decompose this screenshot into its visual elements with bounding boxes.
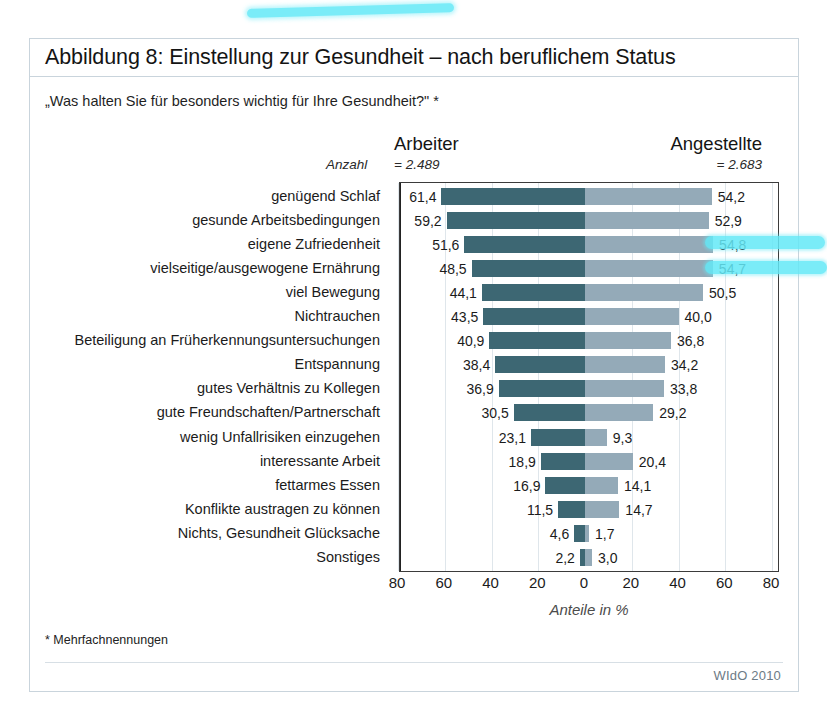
axis-tick-label: 80	[763, 574, 780, 591]
bar-arbeiter	[531, 429, 585, 446]
category-label: Beteiligung an Früherkennungsuntersuchun…	[74, 328, 380, 352]
value-label-arbeiter: 11,5	[400, 498, 553, 522]
category-label: wenig Unfallrisiken einzugehen	[180, 425, 380, 449]
bar-arbeiter	[514, 404, 585, 421]
anzahl-label: Anzahl	[326, 157, 367, 172]
value-label-arbeiter: 48,5	[400, 257, 467, 281]
page-title: Abbildung 8: Einstellung zur Gesundheit …	[45, 45, 676, 70]
value-label-angestellte: 40,0	[685, 305, 712, 329]
axis-tick-label: 0	[580, 574, 588, 591]
value-label-arbeiter: 43,5	[400, 305, 478, 329]
value-label-arbeiter: 40,9	[400, 329, 484, 353]
value-label-angestellte: 52,9	[715, 209, 742, 233]
category-label: Nichts, Gesundheit Glücksache	[178, 521, 380, 545]
bar-arbeiter	[447, 212, 585, 229]
bar-angestellte	[585, 212, 709, 229]
category-label-column: genügend Schlafgesunde Arbeitsbedingunge…	[30, 182, 390, 572]
value-label-angestellte: 1,7	[595, 522, 614, 546]
bar-angestellte	[585, 525, 589, 542]
value-label-angestellte: 9,3	[613, 426, 632, 450]
footnote: * Mehrfachnennungen	[45, 633, 168, 647]
gridline	[398, 183, 399, 571]
category-label: genügend Schlaf	[271, 184, 380, 208]
column-headers: Arbeiter = 2.489 Angestellte = 2.683 Anz…	[30, 133, 798, 179]
value-label-angestellte: 36,8	[677, 329, 704, 353]
bar-arbeiter	[495, 356, 585, 373]
x-axis-caption: Anteile in %	[399, 601, 779, 618]
value-label-arbeiter: 38,4	[400, 353, 490, 377]
question-subtitle: „Was halten Sie für besonders wichtig fü…	[45, 93, 439, 109]
category-label: Konflikte austragen zu können	[185, 497, 380, 521]
value-label-arbeiter: 18,9	[400, 450, 536, 474]
value-label-arbeiter: 4,6	[400, 522, 569, 546]
axis-tick-label: 20	[622, 574, 639, 591]
bar-angestellte	[585, 260, 713, 277]
value-label-angestellte: 54,2	[718, 185, 745, 209]
series-title-arbeiter: Arbeiter	[394, 133, 459, 155]
bar-angestellte	[585, 380, 664, 397]
category-label: Entspannung	[295, 352, 380, 376]
category-label: Nichtrauchen	[295, 304, 380, 328]
category-label: interessante Arbeit	[260, 449, 380, 473]
bar-angestellte	[585, 477, 618, 494]
bar-arbeiter	[483, 308, 585, 325]
bar-arbeiter	[574, 525, 585, 542]
value-label-arbeiter: 61,4	[400, 185, 436, 209]
value-label-angestellte: 54,7	[719, 257, 746, 281]
category-label: vielseitige/ausgewogene Ernährung	[150, 256, 380, 280]
series-count-arbeiter: = 2.489	[394, 157, 439, 172]
bar-arbeiter	[499, 380, 585, 397]
axis-tick-label: 60	[435, 574, 452, 591]
chart-plot-area: 61,454,259,252,951,654,848,554,744,150,5…	[399, 182, 779, 572]
category-label: gesunde Arbeitsbedingungen	[192, 208, 380, 232]
value-label-arbeiter: 30,5	[400, 401, 509, 425]
category-label: eigene Zufriedenheit	[248, 232, 380, 256]
figure-container: Abbildung 8: Einstellung zur Gesundheit …	[29, 38, 799, 692]
value-label-arbeiter: 2,2	[400, 546, 575, 570]
value-label-angestellte: 29,2	[659, 401, 686, 425]
value-label-angestellte: 14,7	[625, 498, 652, 522]
value-label-arbeiter: 44,1	[400, 281, 477, 305]
bar-arbeiter	[472, 260, 585, 277]
category-label: viel Bewegung	[286, 280, 380, 304]
bar-arbeiter	[464, 236, 585, 253]
value-label-angestellte: 34,2	[671, 353, 698, 377]
series-count-angestellte: = 2.683	[717, 157, 762, 172]
axis-tick-label: 60	[716, 574, 733, 591]
bar-arbeiter	[545, 477, 585, 494]
category-label: gute Freundschaften/Partnerschaft	[157, 400, 380, 424]
bar-arbeiter	[441, 188, 585, 205]
axis-tick-label: 40	[669, 574, 686, 591]
value-label-angestellte: 3,0	[598, 546, 617, 570]
bar-angestellte	[585, 236, 713, 253]
value-label-angestellte: 50,5	[709, 281, 736, 305]
bar-arbeiter	[558, 501, 585, 518]
bar-angestellte	[585, 501, 619, 518]
category-label: gutes Verhältnis zu Kollegen	[197, 376, 380, 400]
value-label-arbeiter: 23,1	[400, 426, 526, 450]
value-label-angestellte: 14,1	[624, 474, 651, 498]
source-divider	[45, 662, 783, 663]
bar-angestellte	[585, 356, 665, 373]
bar-angestellte	[585, 453, 633, 470]
value-label-arbeiter: 16,9	[400, 474, 540, 498]
figure-title-bar: Abbildung 8: Einstellung zur Gesundheit …	[30, 39, 798, 77]
value-label-arbeiter: 59,2	[400, 209, 442, 233]
bar-angestellte	[585, 429, 607, 446]
bar-angestellte	[585, 404, 653, 421]
highlighter-stroke-top	[247, 3, 454, 18]
bar-arbeiter	[482, 284, 585, 301]
axis-tick-label: 80	[389, 574, 406, 591]
axis-tick-label: 40	[482, 574, 499, 591]
bar-angestellte	[585, 549, 592, 566]
category-label: Sonstiges	[316, 545, 380, 569]
bar-arbeiter	[541, 453, 585, 470]
bar-angestellte	[585, 332, 671, 349]
value-label-angestellte: 54,8	[719, 233, 746, 257]
bar-angestellte	[585, 188, 712, 205]
bar-angestellte	[585, 284, 703, 301]
category-label: fettarmes Essen	[275, 473, 380, 497]
value-label-arbeiter: 51,6	[400, 233, 459, 257]
value-label-angestellte: 33,8	[670, 377, 697, 401]
source-credit: WIdO 2010	[713, 668, 781, 683]
